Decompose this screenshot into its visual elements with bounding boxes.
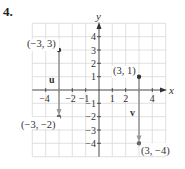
y-tick-label: −4 xyxy=(85,138,96,149)
point-label-v-end: (3, −4) xyxy=(141,145,170,157)
y-tick-label: 4 xyxy=(91,31,96,42)
x-tick-label: 4 xyxy=(150,93,155,104)
point-label-v-start: (3, 1) xyxy=(113,65,136,77)
y-axis-label: y xyxy=(95,10,101,22)
y-tick-label: −3 xyxy=(85,125,96,136)
coordinate-plane: x y −4 −2 −1 1 2 4 4 3 2 1 −1 −2 −3 −4 u… xyxy=(0,0,185,169)
x-axis-label: x xyxy=(168,84,174,96)
x-tick-label: −4 xyxy=(39,93,50,104)
vector-v xyxy=(137,75,142,146)
vector-v-arrowhead-icon xyxy=(137,136,142,143)
vector-v-label: v xyxy=(130,107,135,118)
point-start-v xyxy=(137,75,141,79)
x-tick-label: 2 xyxy=(123,93,128,104)
y-tick-label: −1 xyxy=(85,98,96,109)
vector-u-label: u xyxy=(49,74,55,85)
point-label-u-end: (−3, −2) xyxy=(21,119,56,131)
x-tick-label: −2 xyxy=(65,93,76,104)
y-tick-label: −2 xyxy=(85,111,96,122)
y-tick-label: 3 xyxy=(91,45,96,56)
x-tick-label: 1 xyxy=(110,93,115,104)
y-tick-label: 1 xyxy=(91,71,96,82)
vector-u xyxy=(57,48,62,119)
y-tick-label: 2 xyxy=(91,58,96,69)
point-label-u-start: (−3, 3) xyxy=(27,38,56,50)
